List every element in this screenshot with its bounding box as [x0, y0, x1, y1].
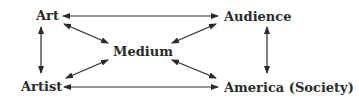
- arrow-audience-medium: [172, 24, 216, 43]
- arrow-artist-medium: [66, 60, 108, 78]
- arrow-america-medium: [172, 60, 216, 78]
- node-artist: Artist: [21, 80, 62, 93]
- node-medium: Medium: [113, 45, 173, 58]
- arrow-art-medium: [64, 24, 108, 43]
- node-art: Art: [36, 9, 59, 22]
- node-america-society: America (Society): [224, 81, 354, 94]
- relationship-diagram: Art Audience Medium Artist America (Soci…: [0, 0, 359, 102]
- node-audience: Audience: [224, 10, 291, 23]
